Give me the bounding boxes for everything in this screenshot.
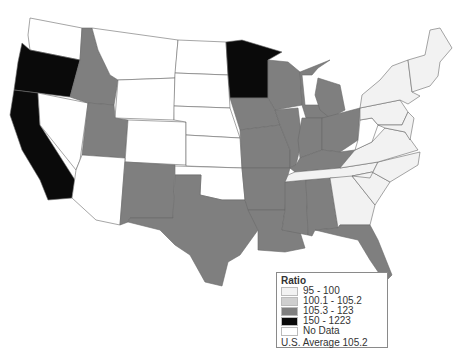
- state-nm: [120, 162, 175, 225]
- state-ms: [282, 180, 308, 235]
- state-az: [72, 155, 125, 225]
- state-wi: [268, 60, 302, 110]
- state-new-england: [408, 28, 452, 92]
- map-legend: Ratio 95 - 100 100.1 - 105.2 105.3 - 123…: [276, 272, 388, 348]
- state-nd: [175, 40, 228, 75]
- legend-label: No Data: [303, 326, 340, 336]
- us-state-map: [0, 0, 462, 351]
- us-average-note: U.S. Average 105.2: [281, 337, 383, 349]
- legend-swatch: [281, 307, 298, 316]
- legend-swatch: [281, 317, 298, 326]
- legend-swatch: [281, 287, 298, 296]
- state-sd: [174, 73, 230, 108]
- legend-swatch: [281, 327, 298, 336]
- state-ks: [186, 135, 242, 168]
- legend-swatch: [281, 297, 298, 306]
- state-wy: [115, 78, 175, 120]
- legend-item: No Data: [281, 326, 383, 336]
- state-ar: [242, 168, 290, 210]
- state-co: [125, 120, 186, 165]
